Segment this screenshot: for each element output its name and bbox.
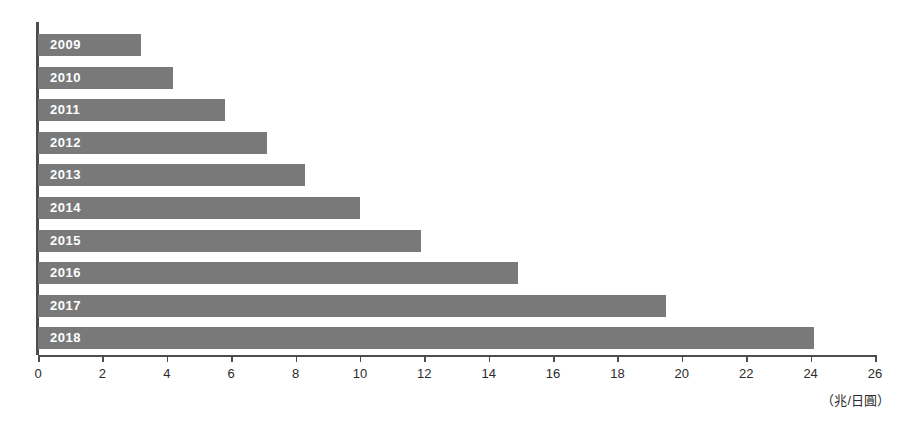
x-axis-tick-mark — [811, 355, 813, 362]
bar-category-label: 2014 — [50, 197, 81, 219]
x-axis-tick-label: 8 — [292, 366, 299, 381]
bar-chart: 02468101214161820222426 2009201020112012… — [0, 0, 916, 427]
bar-row: 2014 — [38, 197, 360, 219]
x-axis-tick-label: 14 — [481, 366, 495, 381]
x-axis-tick-mark — [424, 355, 426, 362]
bar-row: 2016 — [38, 262, 518, 284]
bar-category-label: 2009 — [50, 34, 81, 56]
x-axis-tick-mark — [38, 355, 40, 362]
bar-category-label: 2013 — [50, 164, 81, 186]
x-axis-unit-label: （兆/日圓） — [821, 390, 890, 409]
x-axis-tick-label: 22 — [739, 366, 753, 381]
bar-row: 2011 — [38, 99, 225, 121]
x-axis-tick-mark — [231, 355, 233, 362]
bar-category-label: 2017 — [50, 295, 81, 317]
bar-category-label: 2012 — [50, 132, 81, 154]
x-axis-tick-label: 26 — [868, 366, 882, 381]
x-axis-tick-mark — [360, 355, 362, 362]
x-axis-tick-mark — [102, 355, 104, 362]
bar-row: 2009 — [38, 34, 141, 56]
x-axis-tick-mark — [167, 355, 169, 362]
bar-row: 2013 — [38, 164, 305, 186]
bar — [38, 230, 421, 252]
x-axis-tick-label: 0 — [34, 366, 41, 381]
x-axis-tick-mark — [489, 355, 491, 362]
bar-row: 2012 — [38, 132, 267, 154]
x-axis-tick-label: 4 — [163, 366, 170, 381]
x-axis-tick-label: 12 — [417, 366, 431, 381]
x-axis-tick-label: 24 — [803, 366, 817, 381]
x-axis-tick-mark — [553, 355, 555, 362]
x-axis-tick-label: 6 — [228, 366, 235, 381]
x-axis-tick-label: 2 — [99, 366, 106, 381]
bar-category-label: 2015 — [50, 230, 81, 252]
x-axis-tick-mark — [875, 355, 877, 362]
bar-category-label: 2011 — [50, 99, 80, 121]
bar-category-label: 2016 — [50, 262, 81, 284]
x-axis-tick-label: 18 — [610, 366, 624, 381]
bar-row: 2017 — [38, 295, 666, 317]
bar-row: 2010 — [38, 67, 173, 89]
x-axis-tick-label: 20 — [675, 366, 689, 381]
bar-category-label: 2018 — [50, 327, 81, 349]
x-axis-tick-label: 10 — [353, 366, 367, 381]
x-axis-tick-mark — [682, 355, 684, 362]
bar — [38, 327, 814, 349]
bar-row: 2015 — [38, 230, 421, 252]
bar-category-label: 2010 — [50, 67, 81, 89]
x-axis-tick-mark — [617, 355, 619, 362]
x-axis-tick-mark — [296, 355, 298, 362]
bar — [38, 295, 666, 317]
x-axis-tick-mark — [746, 355, 748, 362]
bar — [38, 197, 360, 219]
bar-row: 2018 — [38, 327, 814, 349]
bar — [38, 262, 518, 284]
x-axis-line — [38, 355, 876, 357]
x-axis-tick-label: 16 — [546, 366, 560, 381]
